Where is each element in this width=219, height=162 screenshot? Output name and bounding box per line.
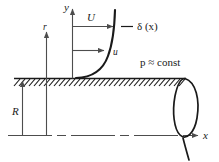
velocity-vectors: U u <box>73 11 119 57</box>
pipe-tail-curve <box>183 138 189 160</box>
freestream-velocity-label: U <box>87 11 96 23</box>
y-axis-label: y <box>63 1 69 13</box>
local-velocity-label: u <box>113 47 118 57</box>
boundary-layer-figure: x r R y U u δ (x) <box>0 0 219 162</box>
pipe-end-ellipse <box>174 79 198 161</box>
pipe-wall <box>14 79 186 87</box>
y-axis: y <box>63 1 73 79</box>
boundary-layer-label: δ (x) <box>137 20 158 33</box>
boundary-layer-curve <box>76 10 115 78</box>
pressure-label: p ≈ const <box>140 56 180 68</box>
radius-dimension: R <box>11 81 23 136</box>
r-axis-label: r <box>43 22 47 32</box>
radius-label: R <box>11 105 19 117</box>
figure-canvas: x r R y U u δ (x) <box>0 0 219 162</box>
x-axis-label: x <box>202 129 208 141</box>
pipe-cross-section <box>174 79 198 138</box>
wall-hatching <box>14 79 185 86</box>
boundary-layer-annotation: δ (x) <box>121 20 158 33</box>
velocity-profile-curve <box>76 10 115 78</box>
